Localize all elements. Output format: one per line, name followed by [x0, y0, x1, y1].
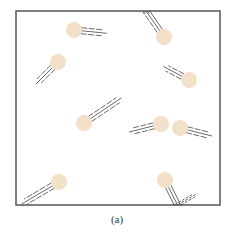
motion-trail-line [81, 31, 107, 34]
molecule-8 [22, 174, 67, 204]
motion-trail-line [27, 188, 55, 204]
molecule-ball [181, 72, 197, 88]
molecule-2 [143, 11, 172, 45]
molecule-ball [172, 120, 188, 136]
molecule-ball [51, 174, 67, 190]
motion-trail-line [150, 11, 163, 30]
molecule-9 [157, 172, 197, 205]
molecule-ball [156, 29, 172, 45]
motion-trail-line [24, 183, 52, 199]
molecules-group [22, 11, 212, 205]
molecule-ball [66, 22, 82, 38]
motion-trail-line [129, 126, 154, 132]
molecule-4 [163, 66, 197, 88]
container-box [16, 11, 220, 205]
molecule-3 [36, 54, 66, 84]
motion-trail-line [187, 130, 212, 136]
motion-trail-line [132, 123, 153, 128]
motion-trail-line [22, 186, 53, 204]
molecule-ball [157, 172, 173, 188]
motion-trail-line [88, 98, 116, 117]
molecule-ball [76, 115, 92, 131]
molecule-5 [76, 98, 121, 131]
motion-trail-line [37, 65, 51, 79]
motion-trail-line [181, 196, 196, 205]
motion-trail-line [134, 129, 155, 134]
molecule-7 [172, 120, 212, 138]
figure-caption: (a) [0, 213, 234, 225]
motion-trail-line [90, 98, 122, 119]
motion-trail-line [36, 67, 53, 84]
molecule-ball [153, 116, 169, 132]
motion-trail-line [81, 28, 103, 30]
motion-trail-line [186, 133, 207, 138]
motion-trail-line [143, 12, 158, 33]
molecule-1 [66, 22, 107, 38]
motion-trail-line [188, 127, 209, 132]
molecule-ball [50, 54, 66, 70]
gas-molecules-diagram [0, 0, 234, 234]
motion-trail-line [41, 69, 55, 83]
motion-trail-line [81, 34, 103, 36]
motion-trail-line [91, 103, 119, 122]
motion-trail-line [146, 11, 160, 31]
molecule-6 [129, 116, 169, 134]
motion-trail-line [178, 193, 198, 205]
